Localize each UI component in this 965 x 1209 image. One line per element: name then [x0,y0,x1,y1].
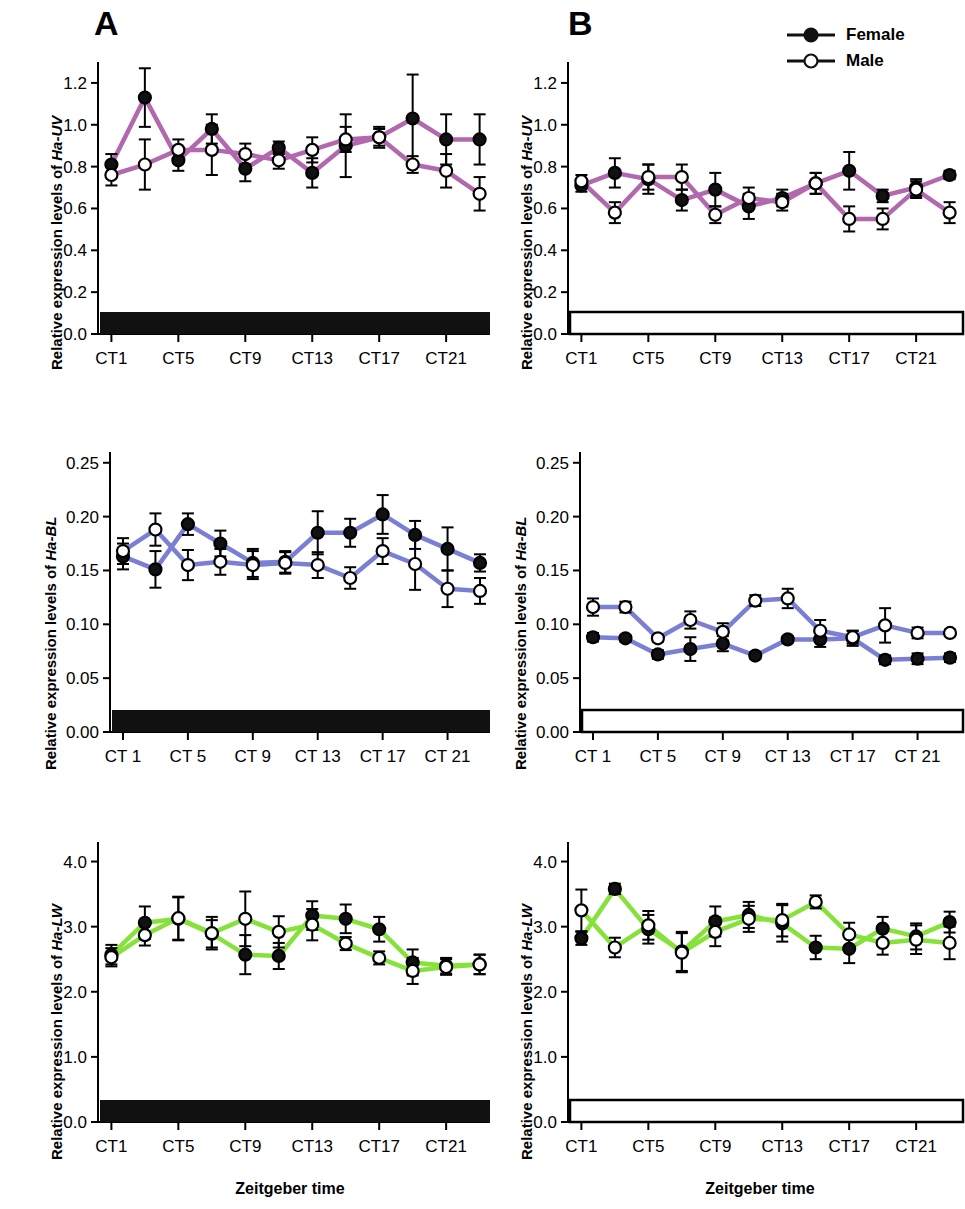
data-point-male [642,171,654,183]
y-tick-label: 0.20 [66,508,99,527]
data-point-male [247,559,259,571]
data-point-female [340,913,352,925]
x-tick-label: CT9 [229,349,261,368]
data-point-male [340,133,352,145]
y-tick-label: 0.2 [533,283,557,302]
data-point-female [239,949,251,961]
x-axis-title-left: Zeitgeber time [160,1180,420,1198]
data-point-male [407,159,419,171]
data-point-female [609,167,621,179]
data-point-male [149,524,161,536]
y-axis-label-prefix: Relative expression levels of [42,561,59,770]
x-tick-label: CT21 [425,349,467,368]
y-axis-label-gene: Ha-LW [48,904,65,951]
data-point-male [474,958,486,970]
data-point-male [377,545,389,557]
data-point-male [587,601,599,613]
x-tick-label: CT1 [95,349,127,368]
series-line-female [111,98,479,173]
data-point-male [172,144,184,156]
x-tick-label: CT 13 [765,747,811,766]
y-tick-label: 1.2 [63,74,87,93]
data-point-female [717,638,729,650]
data-point-male [749,595,761,607]
data-point-male [340,938,352,950]
data-point-female [442,543,454,555]
data-point-male [717,626,729,638]
x-tick-label: CT21 [895,1137,937,1156]
data-point-male [709,926,721,938]
data-point-male [843,928,855,940]
x-tick-label: CT5 [162,349,194,368]
y-tick-label: 0.25 [536,454,569,473]
legend-marker-open-circle-icon [785,51,837,71]
y-tick-label: 0.10 [66,615,99,634]
data-point-male [306,919,318,931]
data-point-male [182,559,194,571]
y-axis-label-prefix: Relative expression levels of [518,161,535,370]
data-point-male [440,961,452,973]
data-point-female [587,631,599,643]
y-tick-label: 1.0 [63,116,87,135]
data-point-male [442,583,454,595]
x-tick-label: CT 13 [295,747,341,766]
x-tick-label: CT5 [632,1137,664,1156]
series-line-male [593,598,950,638]
data-point-male [279,557,291,569]
data-point-female [139,92,151,104]
data-point-male [172,912,184,924]
data-point-female [407,112,419,124]
x-tick-label: CT17 [828,1137,870,1156]
data-point-female [843,165,855,177]
data-point-male [743,192,755,204]
data-point-male [709,209,721,221]
y-tick-label: 0.05 [536,669,569,688]
series-line-female [123,514,480,569]
data-point-male [652,632,664,644]
data-point-female [684,643,696,655]
data-point-female [810,941,822,953]
legend-label: Male [846,51,884,71]
data-point-female [409,529,421,541]
y-tick-label: 2.0 [533,983,557,1002]
y-tick-label: 0.8 [63,158,87,177]
data-point-male [407,965,419,977]
y-tick-label: 0.15 [536,561,569,580]
data-point-female [944,652,956,664]
data-point-female [749,650,761,662]
x-tick-label: CT13 [761,1137,803,1156]
x-tick-label: CT 5 [170,747,207,766]
y-tick-label: 0.4 [63,241,87,260]
y-tick-label: 4.0 [533,853,557,872]
data-point-male [105,169,117,181]
data-point-female [344,527,356,539]
data-point-female [843,943,855,955]
data-point-female [619,632,631,644]
x-tick-label: CT9 [229,1137,261,1156]
x-tick-label: CT 1 [105,747,142,766]
data-point-male [814,625,826,637]
y-axis-label-prefix: Relative expression levels of [512,561,529,770]
data-point-female [377,508,389,520]
data-point-male [139,159,151,171]
y-tick-label: 0.00 [66,723,99,742]
chart-b-bl: Relative expression levels of Ha-BL0.000… [490,430,965,775]
data-point-female [206,123,218,135]
y-tick-label: 0.05 [66,669,99,688]
y-axis-label-prefix: Relative expression levels of [48,161,65,370]
x-tick-label: CT21 [425,1137,467,1156]
data-point-female [912,653,924,665]
data-point-female [782,633,794,645]
data-point-male [440,165,452,177]
data-point-male [273,926,285,938]
y-tick-label: 0.20 [536,508,569,527]
figure-root: A B Relative expression levels of Ha-UV0… [0,0,965,1209]
data-point-male [139,929,151,941]
data-point-male [847,631,859,643]
chart-b-uv: Relative expression levels of Ha-UV0.00.… [490,40,965,375]
data-point-female [182,518,194,530]
x-tick-label: CT 17 [360,747,406,766]
data-point-male [117,545,129,557]
x-tick-label: CT17 [828,349,870,368]
y-tick-label: 1.0 [63,1048,87,1067]
